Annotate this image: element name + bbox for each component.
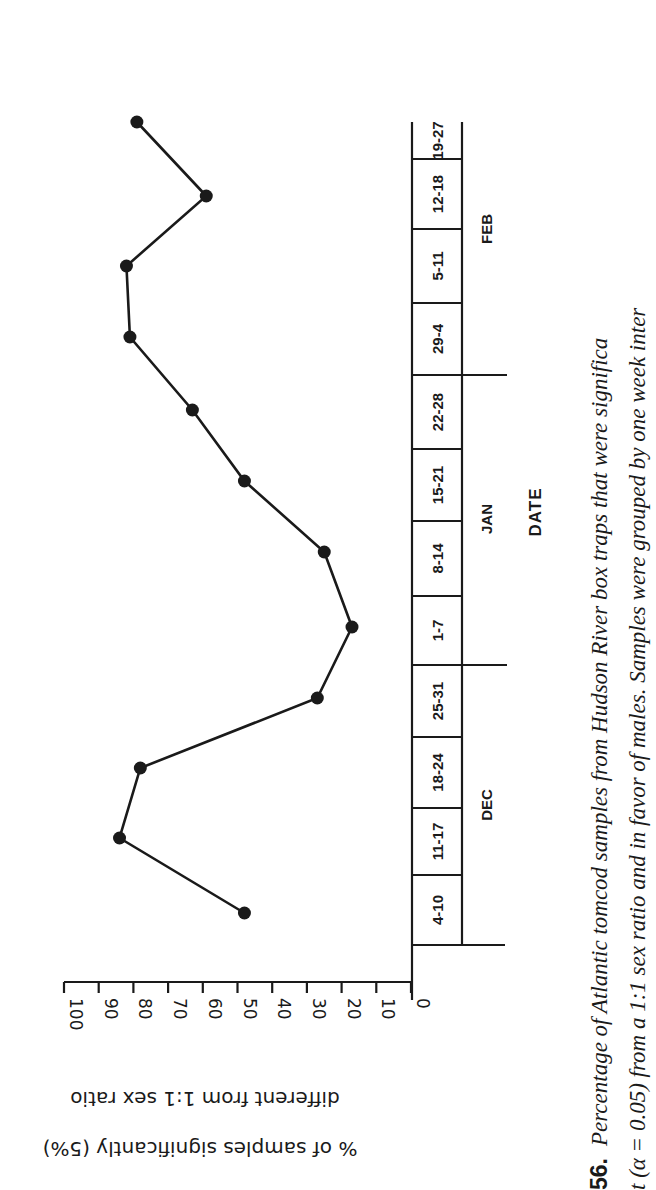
date-cell-label: 15-21 bbox=[429, 466, 446, 504]
value-tick-label: 20 bbox=[344, 998, 364, 1020]
y-axis-title: % of samples significantly (5%) differen… bbox=[43, 1087, 358, 1161]
sex-ratio-chart: 0102030405060708090100 4-1011-1718-2425-… bbox=[0, 0, 656, 1190]
value-tick-label: 80 bbox=[135, 998, 155, 1020]
figure-caption: 56.Percentage of Atlantic tomcod samples… bbox=[586, 307, 650, 1190]
series-line bbox=[120, 122, 352, 913]
y-axis-title-line2: different from 1:1 sex ratio bbox=[70, 1087, 339, 1111]
data-point-marker bbox=[123, 331, 136, 344]
data-point-marker bbox=[346, 621, 359, 634]
date-cell-label: 5-11 bbox=[429, 251, 446, 280]
caption-figure-number: 56. bbox=[586, 1158, 612, 1190]
month-label-feb: FEB bbox=[478, 214, 495, 244]
value-tick-label: 70 bbox=[170, 998, 190, 1020]
data-point-marker bbox=[238, 907, 251, 920]
data-point-marker bbox=[238, 475, 251, 488]
caption-line1-text: Percentage of Atlantic tomcod samples fr… bbox=[587, 338, 612, 1147]
data-point-marker bbox=[130, 116, 143, 129]
month-label-jan: JAN bbox=[478, 504, 495, 534]
x-axis-title: DATE bbox=[526, 487, 545, 536]
caption-line1: 56.Percentage of Atlantic tomcod samples… bbox=[586, 338, 612, 1190]
value-tick-label: 50 bbox=[240, 998, 260, 1020]
value-tick-label: 40 bbox=[274, 998, 294, 1020]
data-point-marker bbox=[318, 546, 331, 559]
date-cell-label: 19-27 bbox=[429, 121, 446, 159]
category-axis: 4-1011-1718-2425-311-78-1415-2122-2829-4… bbox=[412, 121, 545, 1000]
value-tick-label: 10 bbox=[378, 998, 398, 1020]
date-cell-labels: 4-1011-1718-2425-311-78-1415-2122-2829-4… bbox=[429, 121, 446, 925]
data-point-marker bbox=[200, 190, 213, 203]
date-cell-label: 18-24 bbox=[429, 753, 446, 792]
value-axis-ticks bbox=[64, 982, 411, 993]
caption-line2: t (α = 0.05) from a 1:1 sex ratio and in… bbox=[625, 307, 650, 1190]
value-tick-label: 30 bbox=[309, 998, 329, 1020]
value-tick-label: 100 bbox=[66, 998, 86, 1030]
value-axis-tick-labels: 0102030405060708090100 bbox=[66, 998, 433, 1030]
date-cell-label: 11-17 bbox=[429, 823, 446, 861]
data-series bbox=[113, 116, 358, 920]
data-point-marker bbox=[120, 260, 133, 273]
value-tick-label: 60 bbox=[205, 998, 225, 1020]
date-cell-label: 8-14 bbox=[429, 543, 446, 574]
data-point-marker bbox=[311, 692, 324, 705]
y-axis-title-line1: % of samples significantly (5%) bbox=[43, 1137, 358, 1161]
value-tick-label: 90 bbox=[101, 998, 121, 1020]
data-point-marker bbox=[134, 762, 147, 775]
date-cell-label: 4-10 bbox=[429, 895, 446, 925]
value-axis: 0102030405060708090100 bbox=[64, 982, 433, 1030]
date-cell-label: 22-28 bbox=[429, 393, 446, 431]
data-point-marker bbox=[113, 832, 126, 845]
date-cell-label: 29-4 bbox=[429, 323, 446, 354]
date-cell-label: 25-31 bbox=[429, 682, 446, 720]
series-markers bbox=[113, 116, 358, 920]
month-label-dec: DEC bbox=[478, 789, 495, 821]
value-tick-label: 0 bbox=[413, 998, 433, 1009]
date-cell-label: 1-7 bbox=[429, 620, 446, 642]
date-cell-label: 12-18 bbox=[429, 175, 446, 213]
data-point-marker bbox=[186, 404, 199, 417]
